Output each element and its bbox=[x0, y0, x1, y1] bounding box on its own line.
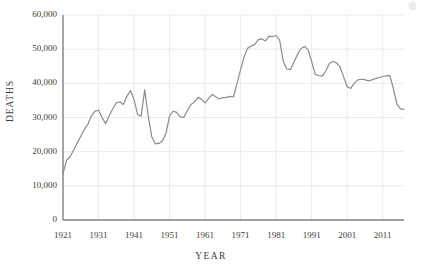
x-tick-label: 1941 bbox=[114, 230, 154, 240]
x-tick-label: 2001 bbox=[327, 230, 367, 240]
y-tick-label: 40,000 bbox=[13, 77, 57, 87]
x-tick-label: 1991 bbox=[292, 230, 332, 240]
deaths-series-line bbox=[63, 36, 404, 174]
x-tick-label: 1961 bbox=[185, 230, 225, 240]
x-axis-title: YEAR bbox=[0, 251, 422, 261]
x-tick-label: 1921 bbox=[43, 230, 83, 240]
y-tick-label: 10,000 bbox=[13, 180, 57, 190]
y-tick-label: 50,000 bbox=[13, 43, 57, 53]
x-tick-label: 1931 bbox=[79, 230, 119, 240]
y-tick-label: 30,000 bbox=[13, 112, 57, 122]
y-tick-label: 0 bbox=[13, 214, 57, 224]
x-tick-label: 1971 bbox=[221, 230, 261, 240]
line-chart-plot bbox=[0, 0, 422, 269]
y-tick-label: 60,000 bbox=[13, 9, 57, 19]
gridlines bbox=[63, 15, 404, 220]
chart-container: 010,00020,00030,00040,00050,00060,000 19… bbox=[0, 0, 422, 269]
x-tick-label: 2011 bbox=[363, 230, 403, 240]
y-tick-label: 20,000 bbox=[13, 146, 57, 156]
y-axis-title: DEATHS bbox=[5, 69, 15, 133]
x-tick-label: 1981 bbox=[256, 230, 296, 240]
x-tick-label: 1951 bbox=[150, 230, 190, 240]
